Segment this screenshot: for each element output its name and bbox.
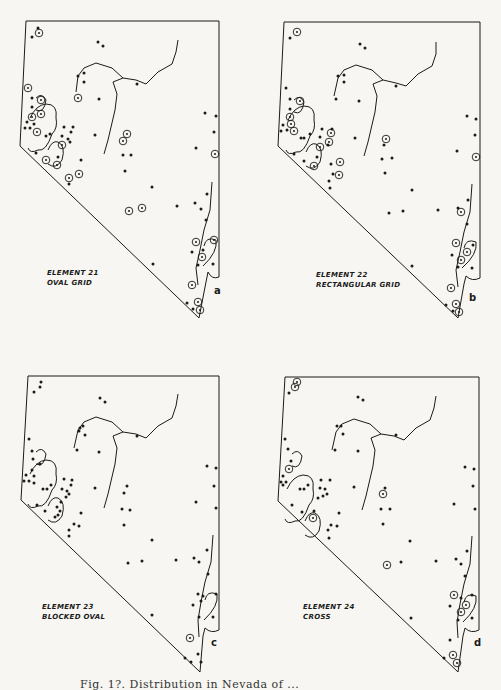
map-panel-d: ELEMENT 24 CROSS d (250, 340, 500, 675)
panel-letter-b: b (469, 292, 476, 303)
panel-letter-c: c (211, 637, 217, 648)
panel-subtitle-b: RECTANGULAR GRID (316, 280, 400, 290)
map-panel-a: ELEMENT 21 OVAL GRID a (0, 0, 250, 335)
nevada-map-c (0, 340, 250, 675)
panel-subtitle-d: CROSS (303, 612, 355, 622)
panel-label-a: ELEMENT 21 OVAL GRID (47, 268, 99, 288)
panel-subtitle-a: OVAL GRID (47, 278, 99, 288)
panel-title-b: ELEMENT 22 (316, 270, 400, 280)
panel-title-c: ELEMENT 23 (42, 602, 105, 612)
map-panel-b: ELEMENT 22 RECTANGULAR GRID b (250, 0, 500, 335)
nevada-map-a (0, 0, 250, 335)
map-panel-c: ELEMENT 23 BLOCKED OVAL c (0, 340, 250, 675)
panel-letter-a: a (214, 285, 221, 296)
panel-subtitle-c: BLOCKED OVAL (42, 612, 105, 622)
panel-title-a: ELEMENT 21 (47, 268, 99, 278)
panel-letter-d: d (474, 637, 481, 648)
figure: ELEMENT 21 OVAL GRID a (0, 0, 501, 690)
nevada-map-d (250, 340, 500, 675)
panel-title-d: ELEMENT 24 (303, 602, 355, 612)
figure-caption: Fig. 1?. Distribution in Nevada of ... (80, 678, 299, 690)
panel-label-b: ELEMENT 22 RECTANGULAR GRID (316, 270, 400, 290)
panel-label-d: ELEMENT 24 CROSS (303, 602, 355, 622)
panel-label-c: ELEMENT 23 BLOCKED OVAL (42, 602, 105, 622)
